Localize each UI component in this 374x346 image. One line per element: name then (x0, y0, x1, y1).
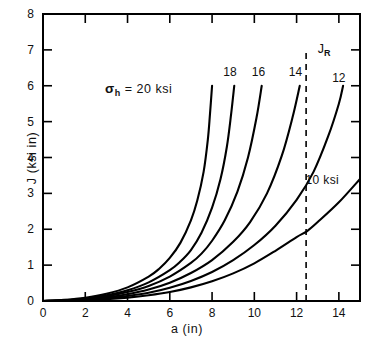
y-axis-ticks-right (351, 50, 360, 265)
x-tick-label-12: 12 (290, 306, 303, 320)
y-tick-label-0: 0 (10, 294, 34, 308)
x-tick-label-2: 2 (82, 306, 89, 320)
curve-12-ksi (43, 86, 343, 301)
x-tick-label-10: 10 (248, 306, 261, 320)
y-tick-label-3: 3 (10, 186, 34, 200)
x-axis-title: a (in) (171, 322, 203, 336)
y-tick-label-5: 5 (10, 115, 34, 129)
y-tick-label-8: 8 (10, 7, 34, 21)
curve-label-16: 16 (252, 65, 265, 79)
x-tick-label-0: 0 (40, 306, 47, 320)
x-tick-label-14: 14 (332, 306, 345, 320)
chart-figure: 8 7 6 5 4 3 2 1 0 0 2 4 6 8 10 12 14 a (… (0, 0, 374, 346)
y-tick-label-6: 6 (10, 79, 34, 93)
axis-frame (43, 14, 360, 301)
curve-20-ksi (43, 86, 212, 301)
y-axis-title: J (ksi in) (25, 132, 39, 185)
curve-label-10-ksi: 10 ksi (305, 173, 339, 187)
curve-label-18: 18 (223, 65, 236, 79)
x-tick-label-4: 4 (124, 306, 131, 320)
curve-10-ksi (43, 179, 360, 301)
plot-border (43, 14, 360, 301)
x-axis-ticks-top (85, 14, 339, 23)
sigma-h-annotation: σh = 20 ksi (105, 81, 172, 98)
data-curves (43, 86, 360, 301)
y-axis-ticks (43, 50, 52, 265)
curve-label-14: 14 (289, 65, 302, 79)
sigma-equals-text: = 20 ksi (125, 82, 172, 96)
sigma-subscript: h (115, 88, 121, 98)
jr-subscript: R (324, 47, 331, 57)
y-tick-label-1: 1 (10, 258, 34, 272)
y-tick-label-7: 7 (10, 43, 34, 57)
sigma-glyph: σ (105, 81, 115, 96)
y-tick-label-2: 2 (10, 222, 34, 236)
curve-label-12: 12 (332, 71, 345, 85)
jr-annotation: JR (318, 42, 331, 58)
x-tick-label-8: 8 (209, 306, 216, 320)
curve-16-ksi (43, 86, 262, 301)
curve-18-ksi (43, 86, 234, 301)
x-tick-label-6: 6 (166, 306, 173, 320)
